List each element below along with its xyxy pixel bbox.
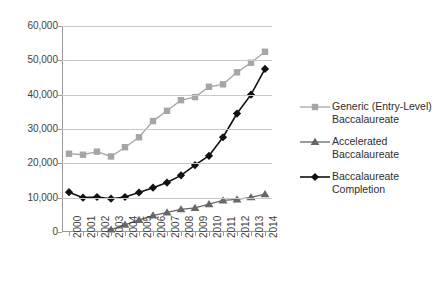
- x-axis-tick-label: 2005: [143, 216, 153, 238]
- series-1: [66, 49, 268, 160]
- x-axis-tick-label: 2006: [157, 216, 167, 238]
- legend-label-line2: Baccalaureate: [332, 113, 448, 126]
- diamond-marker-icon: [300, 171, 330, 183]
- y-axis-tick-label: 10,000: [27, 193, 58, 203]
- square-marker-icon: [300, 101, 330, 113]
- diamond-marker-icon: [149, 184, 157, 192]
- x-axis-tick-label: 2001: [87, 216, 97, 238]
- x-axis-tick-label: 2009: [199, 216, 209, 238]
- legend-item[interactable]: BaccalaureateCompletion: [300, 170, 448, 196]
- y-axis-tick-mark: [58, 26, 62, 27]
- gridline: [62, 163, 272, 164]
- y-axis-tick-mark: [58, 198, 62, 199]
- square-marker-icon: [136, 134, 142, 140]
- square-marker-icon: [178, 97, 184, 103]
- diamond-marker-icon: [135, 188, 143, 196]
- x-axis-tick-label: 2010: [213, 216, 223, 238]
- series-line: [69, 52, 265, 157]
- triangle-marker-icon: [261, 190, 270, 197]
- diamond-marker-icon: [65, 188, 73, 196]
- square-marker-icon: [312, 104, 318, 110]
- legend-label-line2: Completion: [332, 183, 448, 196]
- diamond-marker-icon: [93, 193, 101, 201]
- diamond-marker-icon: [311, 173, 319, 181]
- y-axis-tick-label: 30,000: [27, 124, 58, 134]
- gridline: [62, 198, 272, 199]
- legend-label-line1: Baccalaureate: [332, 170, 448, 183]
- legend-label-line2: Baccalaureate: [332, 148, 448, 161]
- x-axis-tick-label: 2014: [269, 216, 279, 238]
- diamond-marker-icon: [121, 193, 129, 201]
- x-axis-tick-label: 2000: [73, 216, 83, 238]
- legend-item[interactable]: AcceleratedBaccalaureate: [300, 135, 448, 161]
- x-axis: 2000200120022003200420052006200720082009…: [62, 232, 272, 282]
- x-axis-tick-label: 2012: [241, 216, 251, 238]
- square-marker-icon: [220, 81, 226, 87]
- legend-label-line1: Generic (Entry-Level): [332, 100, 448, 113]
- x-axis-tick-label: 2004: [129, 216, 139, 238]
- square-marker-icon: [150, 118, 156, 124]
- legend-item[interactable]: Generic (Entry-Level)Baccalaureate: [300, 100, 448, 126]
- diamond-marker-icon: [261, 65, 269, 73]
- square-marker-icon: [164, 108, 170, 114]
- x-axis-tick-label: 2008: [185, 216, 195, 238]
- square-marker-icon: [80, 152, 86, 158]
- y-axis-tick-label: 50,000: [27, 55, 58, 65]
- x-axis-tick-label: 2003: [115, 216, 125, 238]
- x-axis-tick-label: 2013: [255, 216, 265, 238]
- x-axis-tick-label: 2011: [227, 216, 237, 238]
- square-marker-icon: [122, 144, 128, 150]
- square-marker-icon: [234, 69, 240, 75]
- chart-container: 010,00020,00030,00040,00050,00060,000 20…: [0, 0, 448, 282]
- y-axis-tick-mark: [58, 163, 62, 164]
- y-axis-tick-label: 40,000: [27, 90, 58, 100]
- gridline: [62, 60, 272, 61]
- triangle-marker-icon: [300, 136, 330, 148]
- square-marker-icon: [108, 153, 114, 159]
- y-axis-tick-mark: [58, 95, 62, 96]
- y-axis-tick-label: 20,000: [27, 158, 58, 168]
- square-marker-icon: [262, 49, 268, 55]
- gridline: [62, 26, 272, 27]
- y-axis-tick-mark: [58, 60, 62, 61]
- y-axis-tick-mark: [58, 129, 62, 130]
- gridline: [62, 129, 272, 130]
- gridline: [62, 95, 272, 96]
- legend-label-line1: Accelerated: [332, 135, 448, 148]
- square-marker-icon: [206, 84, 212, 90]
- series-3: [65, 65, 269, 203]
- chart-legend: Generic (Entry-Level)BaccalaureateAccele…: [300, 100, 448, 205]
- y-axis-tick-label: 60,000: [27, 21, 58, 31]
- x-axis-tick-label: 2002: [101, 216, 111, 238]
- square-marker-icon: [94, 148, 100, 154]
- y-axis: 010,00020,00030,00040,00050,00060,000: [0, 0, 58, 282]
- square-marker-icon: [66, 151, 72, 157]
- diamond-marker-icon: [163, 178, 171, 186]
- x-axis-tick-label: 2007: [171, 216, 181, 238]
- plot-area: [62, 26, 272, 232]
